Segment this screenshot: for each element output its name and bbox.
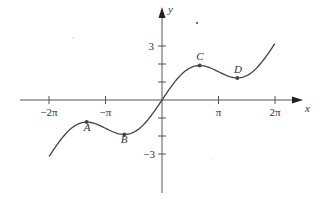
point-c <box>198 64 202 68</box>
tick-label-pi: π <box>216 106 222 118</box>
point-label-b: B <box>121 133 128 145</box>
speck <box>72 37 73 38</box>
tick-label-neg2pi: −2π <box>40 106 58 118</box>
x-axis-label: x <box>304 102 310 114</box>
x-axis-arrow-icon <box>292 97 303 104</box>
speck <box>210 157 211 158</box>
y-axis-label: y <box>167 3 173 15</box>
speck <box>196 22 198 24</box>
point-d <box>235 76 239 80</box>
function-graph: −2π −π π 2π 3 −3 x y A B C D <box>0 0 324 202</box>
point-label-c: C <box>196 50 204 62</box>
point-label-a: A <box>83 121 91 133</box>
tick-label-2pi: 2π <box>269 106 281 118</box>
tick-label-y3: 3 <box>149 40 155 52</box>
point-label-d: D <box>233 63 242 75</box>
tick-label-negpi: −π <box>100 106 112 118</box>
y-axis-arrow-icon <box>159 7 166 18</box>
tick-label-yneg3: −3 <box>143 148 155 160</box>
